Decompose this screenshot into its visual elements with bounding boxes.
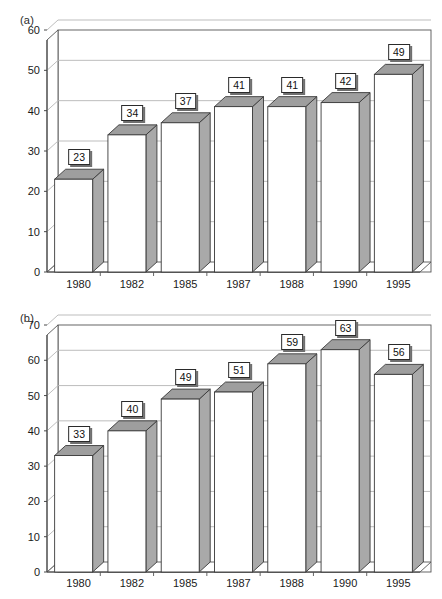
- bar-value-label: 34: [122, 105, 144, 121]
- bar-front-face: [161, 399, 199, 572]
- bar-front-face: [321, 103, 359, 272]
- x-axis-tick-label: 1985: [173, 577, 197, 589]
- x-axis-tick-label: 1988: [279, 577, 303, 589]
- x-axis-tick-label: 1987: [226, 577, 250, 589]
- x-axis-tick-label: 1982: [120, 577, 144, 589]
- bar-value-label: 41: [228, 77, 250, 93]
- bar-side-face: [253, 97, 264, 272]
- bar-side-face: [146, 125, 157, 272]
- plot-canvas: [0, 0, 442, 299]
- y-axis-tick-label: 60: [0, 354, 40, 366]
- x-axis-tick-label: 1985: [173, 278, 197, 290]
- bar-front-face: [55, 179, 93, 272]
- y-axis-tick-label: 50: [0, 64, 40, 76]
- bar-value-label: 51: [228, 362, 250, 378]
- bar-value-label: 63: [335, 320, 357, 336]
- y-axis-tick-label: 70: [0, 319, 40, 331]
- y-axis-tick-label: 20: [0, 185, 40, 197]
- bar-value-label: 33: [68, 426, 90, 442]
- y-axis-tick-label: 50: [0, 390, 40, 402]
- x-axis-tick-label: 1995: [386, 577, 410, 589]
- bar-side-face: [93, 446, 104, 572]
- bar-side-face: [359, 93, 370, 272]
- bar-value-label: 37: [175, 93, 197, 109]
- y-axis-tick-label: 40: [0, 105, 40, 117]
- y-axis-tick-label: 60: [0, 24, 40, 36]
- bar-side-face: [199, 113, 210, 272]
- bar-front-face: [215, 107, 253, 272]
- bar-front-face: [268, 364, 306, 572]
- x-axis-tick-label: 1980: [66, 278, 90, 290]
- bar-side-face: [199, 389, 210, 572]
- y-axis-tick-label: 0: [0, 266, 40, 278]
- bar-front-face: [215, 392, 253, 572]
- x-axis-tick-label: 1988: [279, 278, 303, 290]
- x-axis-tick-label: 1980: [66, 577, 90, 589]
- plot-canvas: [0, 300, 442, 599]
- bar-side-face: [412, 64, 423, 272]
- x-axis-tick-label: 1990: [333, 577, 357, 589]
- bar-front-face: [374, 374, 412, 572]
- gridline-depth-connector: [47, 20, 58, 30]
- bar-value-label: 41: [281, 77, 303, 93]
- x-axis-tick-label: 1990: [333, 278, 357, 290]
- bar-front-face: [55, 456, 93, 572]
- bar-side-face: [306, 354, 317, 572]
- bar-side-face: [306, 97, 317, 272]
- y-axis-tick-label: 30: [0, 145, 40, 157]
- bar-front-face: [108, 135, 146, 272]
- bar-front-face: [108, 431, 146, 572]
- bar-side-face: [359, 340, 370, 572]
- y-axis-tick-label: 0: [0, 566, 40, 578]
- bar-side-face: [146, 421, 157, 572]
- bar-value-label: 49: [388, 44, 410, 60]
- x-axis-tick-label: 1982: [120, 278, 144, 290]
- bar-front-face: [161, 123, 199, 272]
- bar-side-face: [412, 364, 423, 572]
- bar-value-label: 40: [122, 401, 144, 417]
- y-axis-tick-label: 30: [0, 460, 40, 472]
- chart-panel-a: (a) 010203040506019801982198519871988199…: [0, 0, 442, 299]
- x-axis-tick-label: 1995: [386, 278, 410, 290]
- bar-value-label: 42: [335, 73, 357, 89]
- y-axis-tick-label: 20: [0, 495, 40, 507]
- bar-side-face: [253, 382, 264, 572]
- bar-front-face: [321, 350, 359, 572]
- y-axis-tick-label: 40: [0, 425, 40, 437]
- gridline-depth-connector: [47, 315, 58, 325]
- bar-front-face: [268, 107, 306, 272]
- bar-side-face: [93, 169, 104, 272]
- y-axis-tick-label: 10: [0, 226, 40, 238]
- bar-value-label: 23: [68, 149, 90, 165]
- bar-value-label: 49: [175, 369, 197, 385]
- bar-value-label: 59: [281, 334, 303, 350]
- x-axis-tick-label: 1987: [226, 278, 250, 290]
- chart-panel-b: (b) 010203040506070198019821985198719881…: [0, 300, 442, 599]
- bar-value-label: 56: [388, 344, 410, 360]
- bar-front-face: [374, 74, 412, 272]
- y-axis-tick-label: 10: [0, 531, 40, 543]
